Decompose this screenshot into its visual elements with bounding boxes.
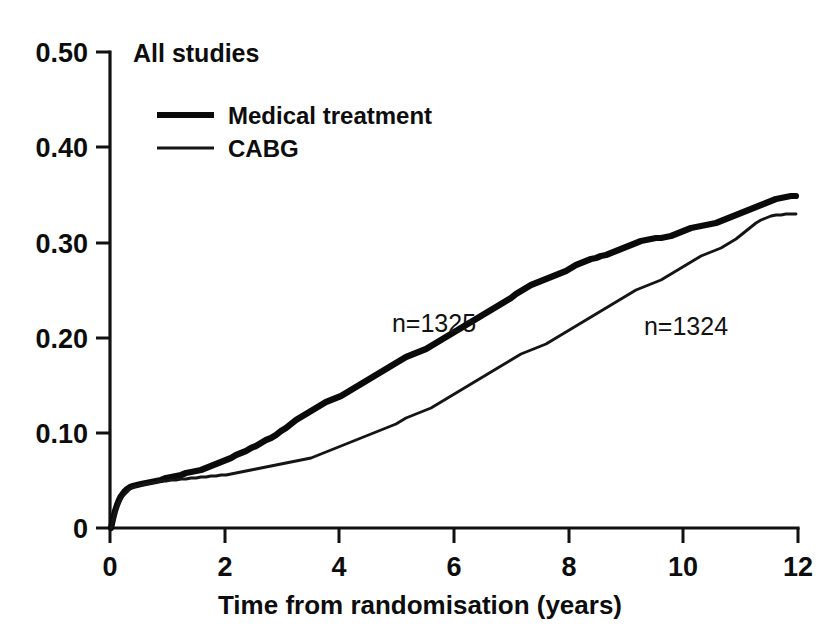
annotation-n-cabg: n=1324 <box>644 312 728 340</box>
legend-label-cabg: CABG <box>228 135 299 162</box>
y-tick-label-050: 0.50 <box>35 38 88 68</box>
legend: Medical treatment CABG <box>157 102 432 162</box>
y-tick-label-010: 0.10 <box>35 419 88 449</box>
x-tick-label-0: 0 <box>102 552 117 582</box>
x-tick-label-6: 6 <box>446 552 461 582</box>
x-tick-label-12: 12 <box>783 552 813 582</box>
chart-canvas: 0.50 0.40 0.30 0.20 0.10 0 0 2 4 6 8 10 … <box>0 0 833 635</box>
y-tick-label-0: 0 <box>73 514 88 544</box>
series-line-medical-treatment <box>111 196 796 528</box>
y-tick-label-040: 0.40 <box>35 133 88 163</box>
chart-figure: 0.50 0.40 0.30 0.20 0.10 0 0 2 4 6 8 10 … <box>0 0 833 635</box>
x-axis-ticks: 0 2 4 6 8 10 12 <box>102 528 813 582</box>
x-tick-label-4: 4 <box>331 552 346 582</box>
axis-group <box>110 52 798 528</box>
panel-title: All studies <box>133 39 259 67</box>
y-tick-label-030: 0.30 <box>35 229 88 259</box>
series-line-cabg <box>111 214 796 528</box>
annotation-n-medical-treatment: n=1325 <box>392 309 476 337</box>
x-axis-title: Time from randomisation (years) <box>218 590 622 620</box>
x-tick-label-10: 10 <box>668 552 698 582</box>
x-tick-label-2: 2 <box>217 552 232 582</box>
y-tick-label-020: 0.20 <box>35 324 88 354</box>
legend-label-medical-treatment: Medical treatment <box>228 102 432 129</box>
y-axis-ticks: 0.50 0.40 0.30 0.20 0.10 0 <box>35 38 110 544</box>
x-tick-label-8: 8 <box>561 552 576 582</box>
